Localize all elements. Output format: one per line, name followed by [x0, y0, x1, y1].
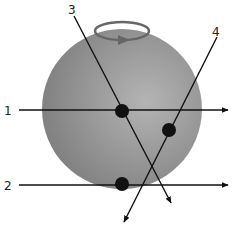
line-label-4: 4 [212, 25, 220, 39]
sphere-lines-diagram: 1234 [0, 0, 236, 234]
line-label-1: 1 [4, 104, 12, 118]
point-2 [162, 123, 176, 137]
point-3 [115, 177, 129, 191]
line-label-3: 3 [68, 3, 76, 17]
point-1 [115, 104, 129, 118]
line-label-2: 2 [4, 179, 12, 193]
